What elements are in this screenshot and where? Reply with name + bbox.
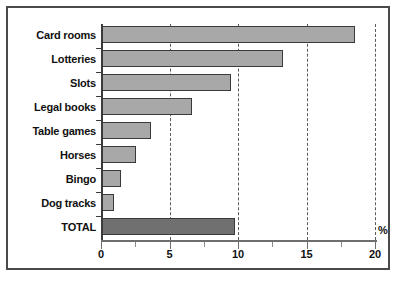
category-label-dog-tracks: Dog tracks <box>11 197 96 209</box>
x-tick-label-0: 0 <box>86 248 116 260</box>
x-axis-minor-tick-2-5 <box>135 242 136 247</box>
category-label-horses: Horses <box>11 149 96 161</box>
y-axis-tick-2 <box>96 72 101 73</box>
bar-total <box>102 218 235 235</box>
category-label-total: TOTAL <box>11 221 96 233</box>
y-axis-tick-5 <box>96 144 101 145</box>
x-tick-label-10: 10 <box>223 248 253 260</box>
x-axis-minor-tick-12-5 <box>272 242 273 247</box>
category-label-slots: Slots <box>11 77 96 89</box>
y-axis-tick-1 <box>96 48 101 49</box>
y-axis-tick-7 <box>96 192 101 193</box>
bar-horses <box>102 146 136 163</box>
x-tick-label-15: 15 <box>292 248 322 260</box>
category-label-lotteries: Lotteries <box>11 53 96 65</box>
x-axis-minor-tick-17-5 <box>341 242 342 247</box>
bar-table-games <box>102 122 151 139</box>
bar-slots <box>102 74 231 91</box>
bar-card-rooms <box>102 26 355 43</box>
y-axis-tick-3 <box>96 96 101 97</box>
gridline-20 <box>375 24 376 240</box>
category-label-card-rooms: Card rooms <box>11 29 96 41</box>
category-label-table-games: Table games <box>11 125 96 137</box>
category-label-bingo: Bingo <box>11 173 96 185</box>
bar-dog-tracks <box>102 194 114 211</box>
x-axis-unit-label: % <box>378 224 388 236</box>
x-axis-minor-tick-7-5 <box>204 242 205 247</box>
x-tick-label-5: 5 <box>155 248 185 260</box>
x-tick-label-20: 20 <box>360 248 390 260</box>
category-label-legal-books: Legal books <box>11 101 96 113</box>
gridline-15 <box>307 24 308 240</box>
category-labels-group: Card roomsLotteriesSlotsLegal booksTable… <box>8 24 96 240</box>
bar-bingo <box>102 170 121 187</box>
y-axis-tick-8 <box>96 216 101 217</box>
y-axis-tick-4 <box>96 120 101 121</box>
bar-lotteries <box>102 50 283 67</box>
x-axis-line <box>101 240 377 242</box>
bar-legal-books <box>102 98 192 115</box>
y-axis-tick-6 <box>96 168 101 169</box>
chart-frame: Card roomsLotteriesSlotsLegal booksTable… <box>6 6 390 270</box>
